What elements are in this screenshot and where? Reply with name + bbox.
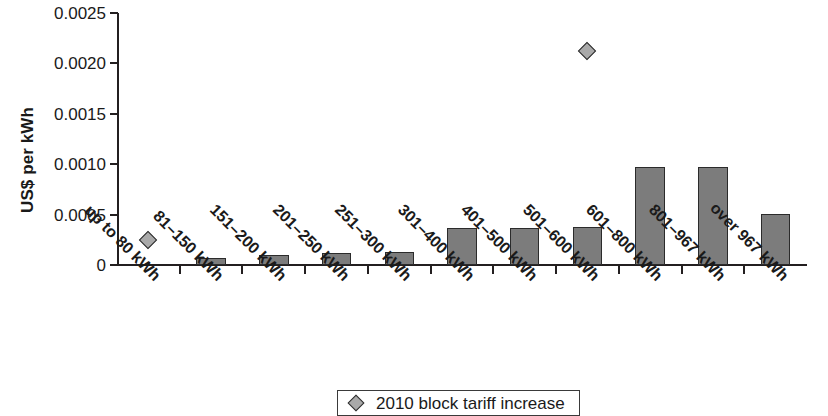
y-tick-label: 0.0025 [20, 5, 106, 22]
y-tick-label: 0.0020 [20, 55, 106, 72]
y-tick-mark [110, 163, 118, 165]
legend-entry-label: 2010 block tariff increase [376, 395, 565, 412]
y-tick-label: 0.0015 [20, 105, 106, 122]
chart-legend: 2010 block tariff increase [337, 390, 580, 416]
y-tick-label: 0.0010 [20, 156, 106, 173]
y-tick-mark [110, 62, 118, 64]
x-axis-tick-labels: up to 80 kWh81–150 kWh151–200 kWh201–250… [117, 272, 827, 382]
y-tick-mark [110, 214, 118, 216]
y-tick-mark [110, 113, 118, 115]
y-tick-mark [110, 12, 118, 14]
diamond-marker-icon [348, 395, 365, 412]
y-tick-mark [110, 264, 118, 266]
diamond-marker [139, 231, 157, 249]
diamond-marker [578, 42, 596, 60]
chart-figure: US$ per kWh 00.00050.00100.00150.00200.0… [0, 0, 828, 416]
y-tick-label: 0 [20, 257, 106, 274]
